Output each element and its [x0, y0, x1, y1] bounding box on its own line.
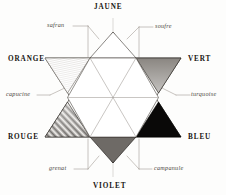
label-campanule: campanule: [154, 165, 183, 171]
label-violet: VIOLET: [93, 183, 126, 190]
label-jaune: JAUNE: [94, 4, 122, 11]
label-capucine: capucine: [6, 91, 30, 97]
label-rouge: ROUGE: [8, 134, 39, 141]
label-safran: safran: [47, 22, 64, 28]
label-soufre: soufre: [155, 23, 172, 29]
label-bleu: BLEU: [188, 134, 211, 141]
figure-canvas: JAUNE VERT BLEU VIOLET ROUGE ORANGE safr…: [0, 0, 226, 195]
violet-wedge: [90, 137, 136, 163]
jaune-wedge: [90, 32, 136, 58]
label-vert: VERT: [188, 56, 211, 63]
hexagram-diagram: [0, 0, 226, 195]
label-orange: ORANGE: [8, 56, 45, 63]
label-grenat: grenat: [49, 165, 66, 171]
label-turquoise: turquoise: [191, 91, 216, 97]
